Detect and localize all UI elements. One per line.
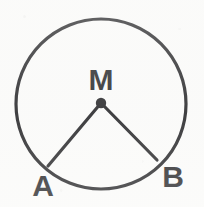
circle-sector-diagram: M A B: [0, 0, 204, 207]
radius-m-a: [48, 103, 101, 166]
geometry-figure: M A B: [0, 0, 204, 207]
label-a: A: [32, 169, 54, 202]
radius-m-b: [101, 103, 157, 160]
label-b: B: [162, 160, 184, 193]
center-point-dot: [96, 98, 106, 108]
label-m: M: [89, 63, 114, 96]
